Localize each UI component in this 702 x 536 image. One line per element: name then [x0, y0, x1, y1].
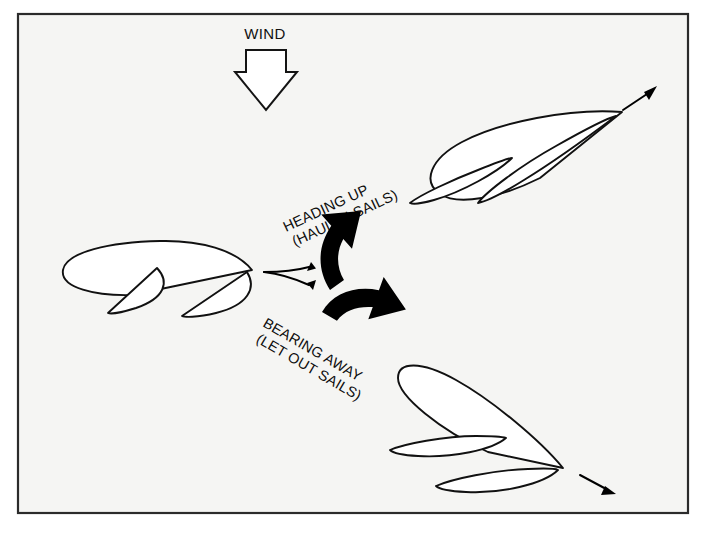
diagram-canvas: WIND HEADING UP (HAUL IN SAILS)	[0, 0, 702, 536]
sailing-points-of-sail-diagram: WIND HEADING UP (HAUL IN SAILS)	[0, 0, 702, 536]
wind-label: WIND	[244, 25, 286, 42]
